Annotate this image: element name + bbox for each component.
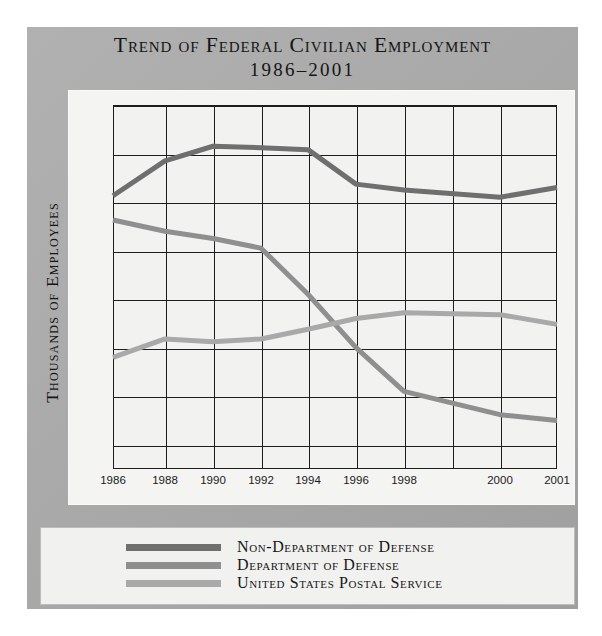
series-line (113, 146, 557, 197)
series-line (113, 313, 557, 358)
legend-label: Non-Department of Defense (237, 538, 435, 556)
legend-swatch (126, 544, 221, 551)
x-axis-tick-label: 2001 (517, 474, 597, 486)
series-line (113, 220, 557, 420)
chart-title: Trend of Federal Civilian Employment 198… (27, 32, 578, 82)
legend-item: Non-Department of Defense (126, 538, 443, 556)
legend-swatch (126, 562, 221, 569)
legend-rows: Non-Department of DefenseDepartment of D… (126, 538, 443, 592)
legend-item: United States Postal Service (126, 574, 443, 592)
series-layer (113, 105, 557, 469)
legend-label: United States Postal Service (237, 574, 443, 592)
chart-title-line-2: 1986–2001 (27, 58, 578, 82)
chart-title-line-1: Trend of Federal Civilian Employment (27, 32, 578, 58)
legend-swatch (126, 580, 221, 587)
y-axis-title: Thousands of Employees (42, 133, 63, 473)
legend: Non-Department of DefenseDepartment of D… (40, 527, 575, 605)
legend-item: Department of Defense (126, 556, 443, 574)
legend-label: Department of Defense (237, 556, 399, 574)
x-axis-tick-label: 1998 (364, 474, 444, 486)
chart-figure: Trend of Federal Civilian Employment 198… (0, 0, 602, 636)
